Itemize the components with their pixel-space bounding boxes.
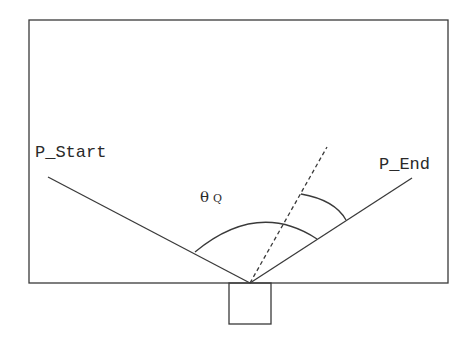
offset-arc	[301, 194, 346, 220]
end-ray	[250, 178, 412, 283]
theta-symbol: θ	[200, 188, 209, 206]
theta-arc	[195, 222, 317, 252]
normal-dashed-line	[250, 147, 327, 283]
base-box	[229, 283, 271, 324]
p-end-label: P_End	[379, 155, 430, 174]
p-start-label: P_Start	[35, 143, 106, 162]
theta-subscript: Q	[213, 192, 222, 205]
theta-q-label: θQ	[200, 188, 222, 206]
